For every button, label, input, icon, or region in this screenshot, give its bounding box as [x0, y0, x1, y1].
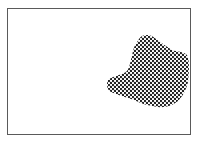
- checkered-blob: [107, 35, 189, 107]
- blob-illustration: [0, 0, 204, 142]
